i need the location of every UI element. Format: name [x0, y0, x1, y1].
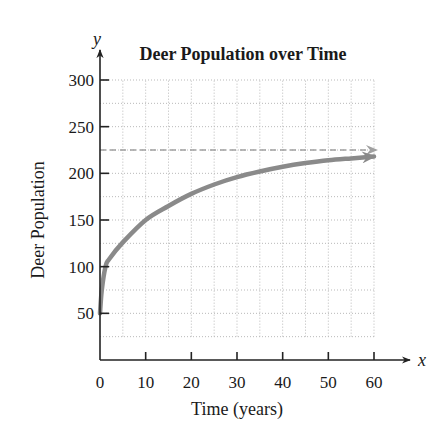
- y-axis-title: Deer Population: [28, 161, 48, 278]
- x-tick-label: 40: [274, 373, 291, 392]
- x-tick-label: 20: [183, 373, 200, 392]
- x-tick-label: 0: [96, 373, 105, 392]
- y-axis-variable: y: [91, 29, 101, 49]
- tick-labels: 010203040506050100150200250300: [69, 71, 383, 392]
- y-tick-label: 200: [69, 164, 95, 183]
- x-tick-label: 10: [137, 373, 154, 392]
- x-tick-label: 30: [229, 373, 246, 392]
- x-tick-label: 50: [320, 373, 337, 392]
- y-tick-label: 300: [69, 71, 95, 90]
- deer-population-chart: 010203040506050100150200250300 y x Deer …: [0, 0, 445, 442]
- y-tick-label: 150: [69, 211, 95, 230]
- x-axis-title: Time (years): [191, 399, 283, 420]
- y-tick-label: 250: [69, 118, 95, 137]
- y-tick-label: 100: [69, 258, 95, 277]
- y-tick-label: 50: [77, 304, 94, 323]
- x-axis-variable: x: [417, 350, 426, 370]
- chart-title: Deer Population over Time: [139, 44, 346, 64]
- gridlines: [100, 80, 374, 337]
- x-tick-label: 60: [366, 373, 383, 392]
